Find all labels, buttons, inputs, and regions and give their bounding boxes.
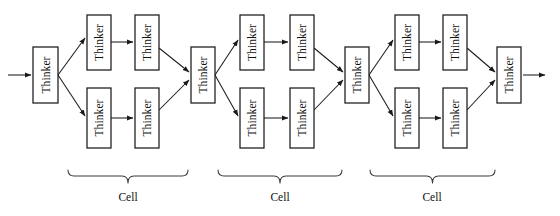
edge-n4-to-n5c [369,75,393,116]
nodes-layer: ThinkerThinkerThinkerThinkerThinkerThink… [33,15,521,148]
node-n1c[interactable]: Thinker [87,88,111,148]
group-cell2: Cell [218,170,342,203]
node-n0[interactable]: Thinker [33,47,58,103]
node-label-n6: Thinker [503,56,515,93]
edge-n5b-to-n6 [467,48,495,72]
node-label-n5d: Thinker [449,99,461,136]
group-label-cell1: Cell [118,191,137,203]
node-label-n3d: Thinker [296,99,308,136]
brace-cell1 [68,170,188,183]
brace-cell2 [218,170,342,183]
node-n1a[interactable]: Thinker [87,15,111,70]
node-n3a[interactable]: Thinker [240,15,264,70]
edge-n2-to-n3a [215,40,238,75]
node-label-n5c: Thinker [401,99,413,136]
node-label-n0: Thinker [40,56,52,93]
node-label-n4: Thinker [351,56,363,93]
node-label-n1c: Thinker [93,99,105,136]
node-label-n3b: Thinker [296,24,308,61]
edge-n0-to-n1a [58,38,85,75]
edge-n1b-to-n2 [159,48,189,72]
node-label-n1d: Thinker [141,99,153,136]
node-n5a[interactable]: Thinker [395,15,419,70]
node-label-n3a: Thinker [246,24,258,61]
node-n6[interactable]: Thinker [497,47,521,103]
node-n1d[interactable]: Thinker [135,88,159,148]
group-cell3: Cell [370,170,495,203]
node-n5b[interactable]: Thinker [443,15,467,70]
edge-n5d-to-n6 [467,80,495,110]
node-n5c[interactable]: Thinker [395,88,419,148]
node-n5d[interactable]: Thinker [443,88,467,148]
node-n3b[interactable]: Thinker [290,15,314,70]
group-braces-layer: CellCellCell [68,170,495,203]
node-label-n1b: Thinker [141,24,153,61]
edge-n3d-to-n4 [314,80,343,110]
node-label-n5b: Thinker [449,24,461,61]
edge-n4-to-n5a [369,40,393,75]
node-label-n3c: Thinker [246,99,258,136]
brace-cell3 [370,170,495,183]
node-n2[interactable]: Thinker [191,47,215,103]
node-label-n1a: Thinker [93,24,105,61]
node-n1b[interactable]: Thinker [135,15,159,70]
node-n4[interactable]: Thinker [345,47,369,103]
edge-n2-to-n3c [215,75,238,116]
node-label-n5a: Thinker [401,24,413,61]
edge-n3b-to-n4 [314,48,343,72]
node-label-n2: Thinker [197,56,209,93]
edge-n0-to-n1c [58,75,85,116]
group-label-cell3: Cell [422,191,441,203]
group-cell1: Cell [68,170,188,203]
node-n3c[interactable]: Thinker [240,88,264,148]
edge-n1d-to-n2 [159,80,189,110]
diagram-canvas: ThinkerThinkerThinkerThinkerThinkerThink… [0,0,560,216]
thinker-pipeline-diagram: ThinkerThinkerThinkerThinkerThinkerThink… [0,0,560,216]
node-n3d[interactable]: Thinker [290,88,314,148]
group-label-cell2: Cell [270,191,289,203]
